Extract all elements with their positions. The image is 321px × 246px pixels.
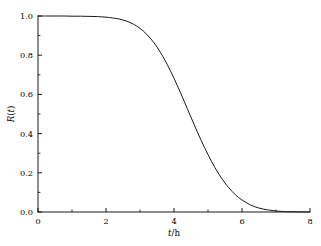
y-tick-label: 1.0 — [6, 12, 33, 20]
plot-area — [38, 16, 310, 212]
x-tick-label: 4 — [171, 217, 176, 225]
y-axis-title-open-paren: ( — [6, 112, 16, 115]
plot-svg — [38, 16, 310, 212]
y-axis-title-symbol: R — [6, 116, 16, 122]
y-tick-label: 0.8 — [6, 51, 33, 59]
x-tick-label: 6 — [239, 217, 244, 225]
axis-spines — [38, 16, 311, 213]
major-tick-marks — [38, 16, 310, 212]
y-tick-label: 0.0 — [6, 208, 33, 216]
x-tick-label: 2 — [103, 217, 108, 225]
x-axis-title-unit: h — [174, 228, 180, 238]
y-axis-title-close-paren: ) — [6, 106, 16, 109]
y-tick-label: 0.4 — [6, 129, 33, 137]
minor-tick-marks — [38, 36, 276, 212]
y-axis-title-variable: t — [6, 109, 16, 112]
y-tick-label: 0.6 — [6, 90, 33, 98]
reliability-chart-figure: R(t) t/h 0.00.20.40.60.81.0 02468 — [0, 0, 321, 246]
x-axis-title: t/h — [168, 229, 180, 238]
x-tick-label: 8 — [307, 217, 312, 225]
y-axis-title: R(t) — [7, 106, 16, 123]
x-tick-label: 0 — [35, 217, 40, 225]
reliability-curve — [38, 16, 310, 212]
y-tick-label: 0.2 — [6, 169, 33, 177]
